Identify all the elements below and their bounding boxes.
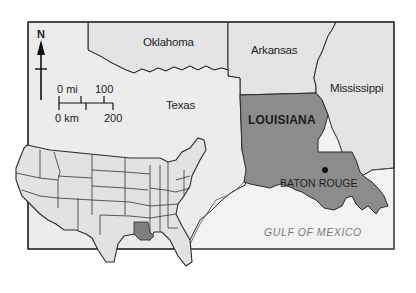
scale-mi-end: 100: [95, 84, 113, 95]
baton-rouge-dot-icon: [322, 167, 328, 173]
gulf-of-mexico-label: GULF OF MEXICO: [264, 227, 362, 238]
louisiana-label: LOUISIANA: [248, 114, 316, 126]
arkansas-label: Arkansas: [251, 45, 297, 57]
scale-mi-start: 0 mi: [57, 84, 78, 95]
louisiana-locator-map: N 0 mi 100 0 km 200 Oklahoma Arkansas Mi…: [0, 0, 416, 293]
baton-rouge-label: BATON ROUGE: [280, 178, 358, 189]
scale-km-end: 200: [104, 113, 122, 124]
texas-label: Texas: [166, 100, 195, 112]
map-graphic: [0, 0, 416, 293]
oklahoma-label: Oklahoma: [143, 37, 194, 49]
mississippi-label: Mississippi: [330, 83, 383, 95]
scale-km-start: 0 km: [55, 113, 79, 124]
north-label: N: [37, 29, 45, 40]
